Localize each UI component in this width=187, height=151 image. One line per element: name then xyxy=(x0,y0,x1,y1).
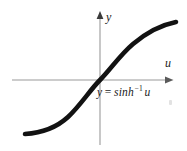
equation-exponent: −1 xyxy=(134,84,142,93)
inverse-sinh-figure: y u y=sinh−1u xyxy=(0,0,187,151)
equation-annotation: y=sinh−1u xyxy=(97,85,150,98)
equation-argument: u xyxy=(144,86,150,98)
equation-function-name: sinh xyxy=(114,86,134,98)
scan-speck-artifact xyxy=(169,100,172,105)
x-axis-arrowhead xyxy=(165,76,174,83)
x-axis-label: u xyxy=(165,57,171,69)
y-axis-arrowhead xyxy=(97,11,104,19)
y-axis-label: y xyxy=(106,11,111,23)
equation-operator: = xyxy=(105,86,112,98)
function-plot-canvas xyxy=(0,0,187,151)
equation-lhs: y xyxy=(97,86,102,98)
